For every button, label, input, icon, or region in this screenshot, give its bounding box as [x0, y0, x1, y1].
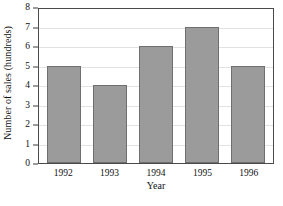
bar	[185, 27, 219, 164]
y-axis-tick-label: 2	[25, 120, 30, 130]
bar-slot	[41, 9, 87, 163]
plot-area	[38, 8, 274, 164]
y-axis-tick-label: 8	[25, 3, 30, 13]
y-axis-title-text: Number of sales (hundreds)	[3, 26, 13, 140]
bar-slot	[225, 9, 271, 163]
y-axis-tick-label: 1	[25, 140, 30, 150]
bar	[139, 46, 173, 163]
plot-inner	[39, 9, 273, 163]
bar	[47, 66, 81, 164]
x-axis-title: Year	[38, 181, 274, 191]
x-axis-tick-label: 1993	[86, 166, 132, 180]
bar	[231, 66, 265, 164]
y-axis-tick-label: 3	[25, 101, 30, 111]
x-axis-tick-label: 1996	[226, 166, 272, 180]
y-axis-tick-label: 4	[25, 81, 30, 91]
x-axis-tick-label: 1994	[133, 166, 179, 180]
y-axis-title: Number of sales (hundreds)	[0, 0, 16, 166]
bar-series	[39, 9, 273, 163]
y-axis-tick-label: 6	[25, 42, 30, 52]
bar-chart: Number of sales (hundreds) 012345678 199…	[0, 0, 283, 206]
x-axis-tick-label: 1992	[40, 166, 86, 180]
bar-slot	[87, 9, 133, 163]
bar-slot	[179, 9, 225, 163]
y-axis-tick-label: 7	[25, 23, 30, 33]
y-axis-tick-label: 0	[25, 159, 30, 169]
bar	[93, 85, 127, 163]
x-axis-tick-labels: 19921993199419951996	[38, 166, 274, 180]
y-axis-tick-label: 5	[25, 62, 30, 72]
bar-slot	[133, 9, 179, 163]
x-axis-tick-label: 1995	[179, 166, 225, 180]
y-axis-tick-labels: 012345678	[16, 8, 33, 164]
